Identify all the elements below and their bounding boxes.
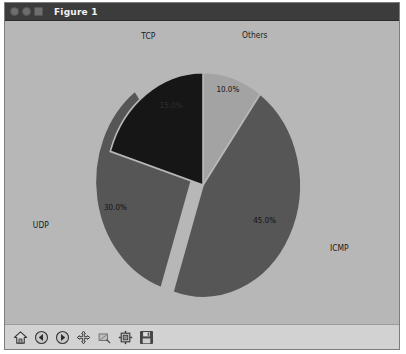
pie-pct-udp: 30.0% (104, 203, 127, 213)
back-arrow-icon (34, 330, 49, 345)
save-floppy-icon (139, 330, 154, 345)
pie-pct-icmp: 45.0% (253, 216, 276, 226)
save-button[interactable] (136, 327, 156, 347)
home-icon (13, 330, 28, 345)
maximize-button[interactable] (34, 7, 43, 16)
home-button[interactable] (10, 327, 30, 347)
zoom-button[interactable] (94, 327, 114, 347)
subplot-sliders-icon (118, 330, 133, 345)
back-button[interactable] (31, 327, 51, 347)
zoom-rect-icon (97, 330, 112, 345)
pie-chart: Others ICMP UDP TCP 10.0% 45.0% 30.0% 15… (5, 21, 399, 324)
pan-button[interactable] (73, 327, 93, 347)
pie-pct-others: 10.0% (217, 85, 240, 95)
forward-button[interactable] (52, 327, 72, 347)
close-button[interactable] (10, 7, 19, 16)
figure-canvas[interactable]: Others ICMP UDP TCP 10.0% 45.0% 30.0% 15… (5, 21, 399, 324)
configure-subplots-button[interactable] (115, 327, 135, 347)
pie-label-others: Others (242, 30, 267, 41)
figure-window: Figure 1 Others ICMP UDP TCP 10.0% 45.0%… (4, 2, 400, 350)
forward-arrow-icon (55, 330, 70, 345)
window-title: Figure 1 (54, 7, 98, 17)
window-titlebar[interactable]: Figure 1 (5, 3, 399, 21)
pie-label-icmp: ICMP (330, 242, 349, 253)
pie-label-udp: UDP (33, 219, 49, 230)
navigation-toolbar (5, 324, 399, 349)
minimize-button[interactable] (22, 7, 31, 16)
pie-label-tcp: TCP (140, 31, 155, 42)
pie-pct-tcp: 15.0% (160, 101, 183, 111)
pan-move-icon (76, 330, 91, 345)
